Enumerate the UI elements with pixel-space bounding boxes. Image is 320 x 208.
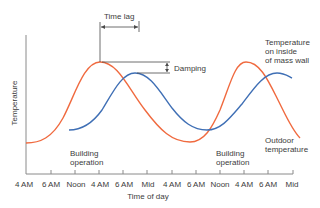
time-lag-annotation (100, 21, 139, 62)
x-tick-label: 4 AM (91, 180, 109, 189)
outdoor-label-line-2: temperature (265, 145, 308, 154)
x-tick-label: Mid (286, 180, 299, 189)
x-tick-label: Mid (142, 180, 155, 189)
inside-temperature-curve (69, 73, 292, 130)
inside-label-line-2: on inside (265, 47, 297, 56)
building-op-left-line-2: operation (70, 158, 103, 167)
x-tick-label: 6 AM (42, 180, 60, 189)
damping-label: Damping (174, 64, 206, 73)
y-axis-label: Temperature (10, 81, 19, 126)
x-tick-label: 4 AM (163, 180, 181, 189)
outdoor-label-line-1: Outdoor (265, 136, 294, 145)
chart-canvas (0, 0, 320, 208)
damping-annotation (102, 62, 170, 73)
time-lag-label: Time lag (104, 12, 134, 21)
x-tick-label: 6 AM (187, 180, 205, 189)
x-tick-label: Noon (210, 180, 229, 189)
building-op-right-line-1: Building (216, 149, 244, 158)
inside-label-line-1: Temperature (265, 38, 310, 47)
outdoor-temperature-curve (26, 62, 300, 143)
x-tick-label: 6 AM (259, 180, 277, 189)
inside-label-line-3: of mass wall (265, 56, 309, 65)
x-tick-label: 4 AM (15, 180, 33, 189)
x-tick-label: Noon (66, 180, 85, 189)
x-tick-label: 4 AM (235, 180, 253, 189)
x-ticks (51, 170, 293, 174)
building-op-right-line-2: operation (216, 158, 249, 167)
x-tick-label: 6 AM (115, 180, 133, 189)
x-axis-label: Time of day (127, 192, 169, 201)
building-op-left-line-1: Building (70, 149, 98, 158)
